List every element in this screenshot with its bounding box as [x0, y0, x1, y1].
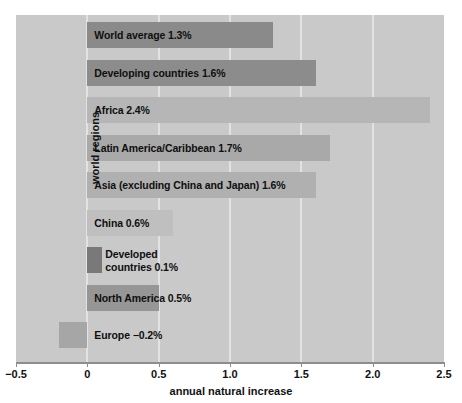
plot-area: World average 1.3%Developing countries 1… — [16, 15, 444, 362]
x-tick-mark — [301, 362, 302, 367]
x-tick-label: 0 — [84, 368, 90, 380]
x-tick-label: 1.5 — [294, 368, 309, 380]
bar-label: North America 0.5% — [94, 292, 191, 304]
x-tick-mark — [16, 362, 17, 367]
x-axis-title: annual natural increase — [0, 385, 462, 397]
bar-developed-countries — [87, 247, 101, 273]
bar-label-line: countries 0.1% — [105, 261, 195, 274]
bar-chart: World average 1.3%Developing countries 1… — [0, 0, 462, 403]
x-tick-label: 2.5 — [436, 368, 451, 380]
y-axis-title: world regions — [87, 83, 103, 213]
gridline — [372, 15, 374, 362]
x-tick-label: 2.0 — [365, 368, 380, 380]
x-tick-label: 0.5 — [151, 368, 166, 380]
x-tick-label: −0.5 — [5, 368, 27, 380]
bar-label: China 0.6% — [94, 217, 149, 229]
bar-label: World average 1.3% — [94, 29, 191, 41]
x-tick-mark — [373, 362, 374, 367]
bar-label: Developedcountries 0.1% — [105, 248, 195, 273]
x-tick-mark — [444, 362, 445, 367]
bar-label: Europe −0.2% — [94, 329, 162, 341]
x-tick-label: 1.0 — [222, 368, 237, 380]
bar-europe — [59, 322, 88, 348]
bar-label: Asia (excluding China and Japan) 1.6% — [94, 179, 285, 191]
bar-label: Latin America/Caribbean 1.7% — [94, 142, 241, 154]
x-tick-mark — [159, 362, 160, 367]
x-tick-mark — [230, 362, 231, 367]
x-tick-mark — [87, 362, 88, 367]
bar-label-line: Developed — [105, 248, 195, 261]
bar-label: Developing countries 1.6% — [94, 67, 225, 79]
